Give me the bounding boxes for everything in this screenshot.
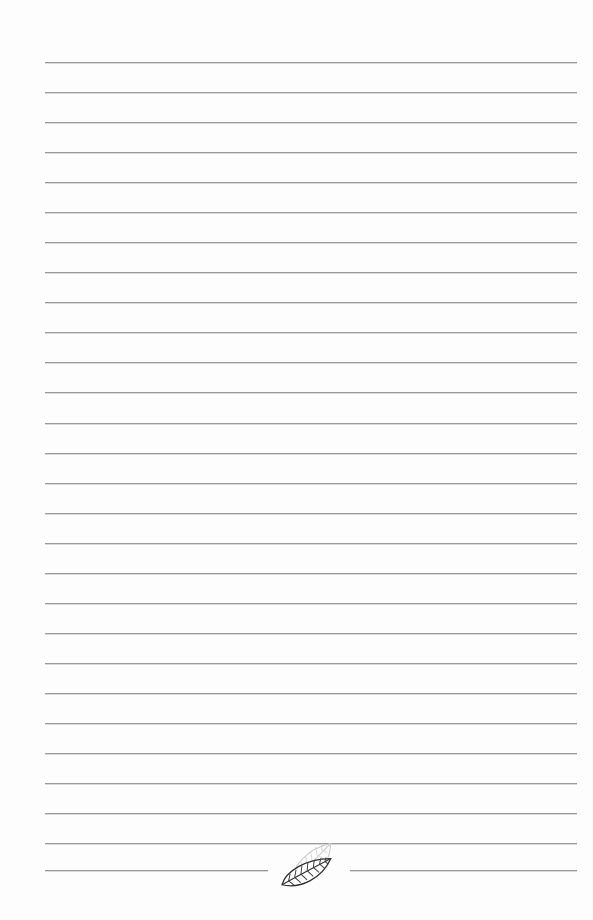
rule-line [45,423,577,424]
rule-line [45,362,577,363]
rule-line [45,663,577,664]
rule-line [45,783,577,784]
rule-line [45,543,577,544]
rule-line [45,62,577,63]
rule-line [45,242,577,243]
rule-line [45,753,577,754]
rule-line [45,92,577,93]
rule-line [45,813,577,814]
rule-line [45,182,577,183]
rule-line [45,483,577,484]
rule-line [45,332,577,333]
rule-line [45,843,577,844]
rule-line [45,513,577,514]
ruled-lines-area [0,0,593,920]
final-rule-left-segment [45,870,268,871]
notepaper-page [0,0,593,920]
rule-line [45,212,577,213]
rule-line [45,693,577,694]
rule-line [45,392,577,393]
final-rule-right-segment [350,870,577,871]
rule-line [45,122,577,123]
rule-line [45,723,577,724]
rule-line [45,302,577,303]
rule-line [45,573,577,574]
rule-line [45,272,577,273]
rule-line [45,603,577,604]
rule-line [45,453,577,454]
rule-line [45,152,577,153]
rule-line [45,633,577,634]
